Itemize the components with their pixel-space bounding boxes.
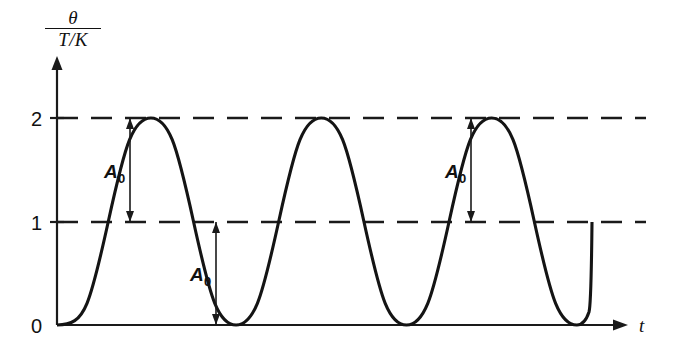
amp-arrow-head-up-1 <box>126 118 134 129</box>
y-tick-label-2: 2 <box>31 108 42 130</box>
amplitude-annotation-3: A 0 <box>444 118 475 222</box>
amp-label-2: A <box>189 264 204 285</box>
y-tick-label-0: 0 <box>31 315 42 337</box>
amp-label-1: A <box>103 161 118 182</box>
amp-arrow-head-down-3 <box>467 211 475 222</box>
amp-sub-1: 0 <box>118 171 125 186</box>
amp-arrow-head-up-2 <box>212 222 220 233</box>
x-axis-label: t <box>639 315 645 336</box>
amp-label-3: A <box>444 161 459 182</box>
amp-arrow-head-up-3 <box>467 118 475 129</box>
x-axis-arrow-icon <box>613 320 628 331</box>
figure-canvas: θ T/K 2 1 0 t <box>0 0 673 353</box>
y-axis-arrow-icon <box>52 56 63 70</box>
amp-arrow-head-down-2 <box>212 314 220 325</box>
y-axis-group: 2 1 0 <box>31 56 64 337</box>
amplitude-annotation-2: A 0 <box>189 222 220 325</box>
y-tick-label-1: 1 <box>31 212 42 234</box>
amp-sub-3: 0 <box>459 171 466 186</box>
amp-sub-2: 0 <box>204 274 211 289</box>
amp-arrow-head-down-1 <box>126 211 134 222</box>
plot-area: 2 1 0 t A 0 <box>0 0 673 353</box>
amplitude-annotation-1: A 0 <box>103 118 134 222</box>
x-axis-group: t <box>57 315 645 336</box>
